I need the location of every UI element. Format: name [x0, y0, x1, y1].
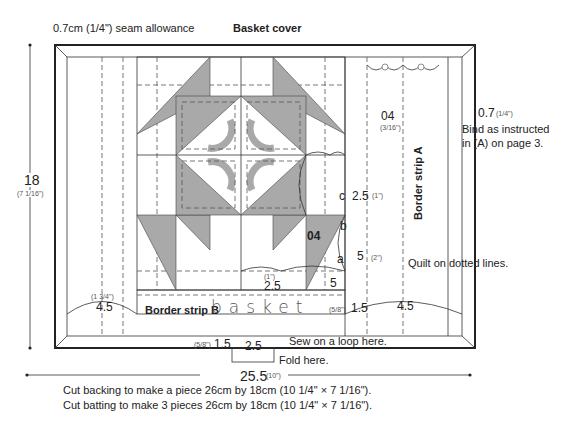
binding-width-inches: (1/4")	[496, 110, 513, 117]
c-dimension-in: (1")	[372, 192, 383, 199]
a-dimension-in: (2")	[371, 254, 382, 261]
bind-note-2: in (A) on page 3.	[462, 138, 543, 149]
width-value: 25.5	[240, 369, 267, 383]
loop-15-in: (5/8")	[194, 341, 211, 348]
width-inches: (10")	[266, 372, 281, 379]
bottom-25: 2.5	[264, 280, 281, 292]
piece-c-label: c	[339, 190, 345, 202]
border-strip-a-label: Border strip A	[413, 146, 424, 220]
c-dimension: 2.5	[352, 190, 369, 202]
embroidery-text: basket	[211, 299, 309, 316]
bind-note: Bind as instructed	[462, 124, 549, 135]
right-15: 1.5	[351, 302, 368, 314]
top-right-04-in: (3/16")	[380, 124, 401, 131]
border-strip-b-label: Border strip B	[145, 305, 219, 316]
left-45: 4.5	[96, 301, 113, 313]
center-04: 04	[307, 230, 320, 242]
title: Basket cover	[233, 23, 302, 34]
right-15-in: (5/8")	[329, 306, 346, 313]
loop-25: 2.5	[245, 340, 262, 352]
loop-15: 1.5	[214, 338, 231, 350]
loop-note: Sew on a loop here.	[289, 336, 387, 347]
height-value: 18	[24, 173, 40, 187]
a-dimension: 5	[357, 250, 364, 262]
batting-note: Cut batting to make 3 pieces 26cm by 18c…	[63, 400, 372, 411]
height-inches: (7 1/16")	[17, 190, 44, 197]
quilt-note: Quilt on dotted lines.	[408, 258, 508, 269]
top-right-04: 04	[381, 110, 394, 122]
right-45: 4.5	[397, 300, 414, 312]
seam-allowance-label: 0.7cm (1/4") seam allowance	[53, 23, 194, 34]
binding-width: 0.7	[478, 107, 495, 119]
piece-a-label: a	[337, 253, 344, 265]
bottom-5: 5	[330, 277, 337, 289]
piece-b-label: b	[340, 220, 347, 232]
left-45-in: (1 3/4")	[91, 293, 114, 300]
fold-note: Fold here.	[279, 355, 329, 366]
backing-note: Cut backing to make a piece 26cm by 18cm…	[63, 385, 371, 396]
